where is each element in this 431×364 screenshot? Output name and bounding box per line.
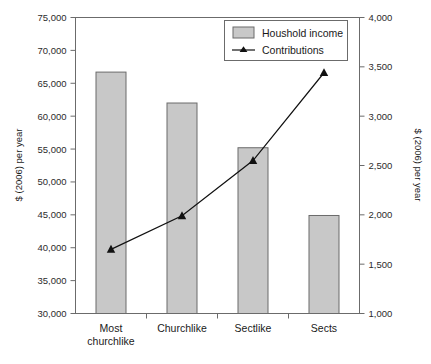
bar [309, 215, 339, 313]
bar [238, 148, 268, 314]
right-tick-label: 1,000 [369, 308, 393, 319]
left-tick-label: 45,000 [37, 209, 66, 220]
x-axis-category-label: Churchlike [157, 322, 207, 334]
x-axis-category-label: Sects [311, 322, 337, 334]
right-tick-label: 4,000 [369, 12, 393, 23]
x-axis-category-label: churchlike [87, 335, 134, 347]
legend-swatch-bar [233, 27, 254, 38]
left-tick-label: 40,000 [37, 242, 66, 253]
x-axis-category-label: Most [100, 322, 123, 334]
left-tick-label: 30,000 [37, 308, 66, 319]
legend-item-houshold-income: Houshold income [233, 27, 343, 39]
right-tick-label: 2,500 [369, 160, 393, 171]
chart-legend: Houshold income Contributions [225, 21, 348, 61]
bar [96, 72, 126, 313]
left-tick-label: 65,000 [37, 78, 66, 89]
dual-axis-bar-line-chart: 30,00035,00040,00045,00050,00055,00060,0… [0, 0, 431, 364]
left-axis-title: $ (2006) per year [13, 129, 24, 202]
left-tick-label: 60,000 [37, 111, 66, 122]
left-tick-label: 70,000 [37, 45, 66, 56]
left-tick-label: 75,000 [37, 12, 66, 23]
right-tick-label: 2,000 [369, 209, 393, 220]
legend-label-contributions: Contributions [262, 44, 324, 56]
right-axis-title: $ (2006) per year [413, 129, 424, 202]
left-tick-label: 55,000 [37, 144, 66, 155]
right-tick-label: 1,500 [369, 259, 393, 270]
left-tick-label: 35,000 [37, 275, 66, 286]
right-tick-label: 3,000 [369, 111, 393, 122]
chart-container: 30,00035,00040,00045,00050,00055,00060,0… [0, 0, 431, 364]
legend-label-houshold-income: Houshold income [262, 27, 343, 39]
right-tick-label: 3,500 [369, 61, 393, 72]
left-tick-label: 50,000 [37, 176, 66, 187]
x-axis-category-label: Sectlike [235, 322, 272, 334]
